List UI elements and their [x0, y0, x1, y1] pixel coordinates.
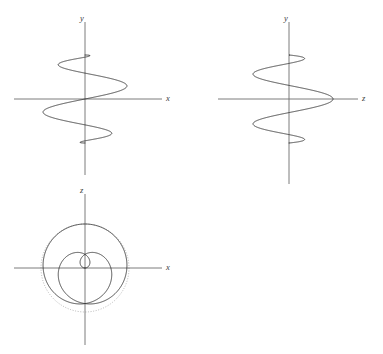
z-axis-label-top-right: z — [361, 93, 366, 103]
z-axis-label-bottom-left: z — [79, 185, 84, 195]
panel-top-left: y x — [14, 13, 170, 175]
x-axis-label-top-left: x — [165, 93, 170, 103]
panel-bottom-left: z x — [14, 185, 170, 345]
panel-top-right: y z — [218, 13, 366, 178]
y-axis-label-top-right: y — [283, 13, 288, 23]
x-axis-label-bottom-left: x — [165, 262, 170, 272]
y-axis-label-top-left: y — [79, 13, 84, 23]
projection-figure: y x y z z x — [0, 0, 383, 354]
